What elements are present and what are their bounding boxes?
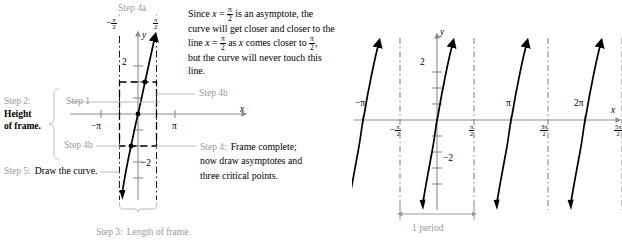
- step-5-block: Step 5: Draw the curve.: [4, 160, 98, 178]
- note-line-3: line x = π2 as x comes closer to π2,: [188, 35, 348, 52]
- right-xlabel-5pi-over-2: 5π2: [614, 124, 622, 138]
- left-y-axis-label: y: [142, 30, 146, 40]
- step-4b-lower-label: Step 4b: [64, 140, 93, 150]
- step-4-text-line3: three critical points.: [200, 170, 278, 181]
- step-2-line3: of frame.: [4, 121, 41, 131]
- right-y-tick-neg2: −2: [443, 153, 453, 163]
- right-xlabel-pi: π: [506, 98, 511, 108]
- critical-point-lower: [129, 144, 134, 149]
- left-curve-arrow-down: [119, 190, 125, 200]
- right-xlabel-neg-pi-over-2: −π2: [390, 124, 401, 138]
- step-2-label: Step 2: Height of frame.: [4, 95, 41, 133]
- step-5-label: Step 5:: [4, 166, 31, 176]
- note-line-5: line.: [188, 65, 348, 77]
- step-2-line1: Step 2:: [4, 96, 31, 106]
- branch-1: [352, 46, 378, 202]
- right-xlabel-pi-over-2: π2: [469, 124, 474, 138]
- step-3-label: Step 3:: [96, 227, 123, 237]
- right-branch-down-arrows: [352, 200, 574, 210]
- right-graph: [352, 20, 622, 220]
- right-x-axis-label: x: [611, 105, 615, 115]
- note-line-2: curve will get closer and closer to the: [188, 23, 348, 35]
- left-asymptote-pos-label: π2: [153, 17, 158, 31]
- step-4a-label: Step 4a: [118, 3, 146, 13]
- step-4-block: Step 4: Frame complete; now draw asympto…: [200, 139, 325, 182]
- step-4-text-line2: now draw asymptotes and: [200, 155, 302, 166]
- critical-point-origin: [136, 112, 141, 117]
- note-line3-d: as: [226, 37, 239, 48]
- note-text-block: Since x = π2 is an asymptote, the curve …: [188, 6, 348, 77]
- step-4-label: Step 4:: [200, 142, 227, 152]
- note-line1-a: Since: [188, 8, 212, 19]
- note-line3-f: comes closer to: [243, 37, 309, 48]
- note-line3-g: ,: [315, 37, 317, 48]
- figure-root: Step 4a −π2 π2 y x 2 −2 −π π Step 1 Step…: [0, 0, 622, 241]
- left-y-tick-2: 2: [122, 57, 127, 67]
- period-label: 1 period: [412, 223, 443, 233]
- right-xlabel-3pi-over-2: 3π2: [540, 124, 548, 138]
- right-xlabel-2pi: 2π: [574, 98, 584, 108]
- step4a-bracket: [120, 14, 157, 16]
- step-2-line2: Height: [4, 109, 31, 119]
- step-5-text: Draw the curve.: [35, 165, 98, 176]
- left-x-axis-label: x: [240, 104, 244, 114]
- right-y-axis-label: y: [440, 27, 444, 37]
- note-line3-c: =: [210, 37, 220, 48]
- critical-point-upper: [143, 80, 148, 85]
- step2-brace: [48, 88, 62, 160]
- note-line1-c: =: [217, 8, 227, 19]
- left-x-tick-neg-pi: −π: [91, 121, 101, 131]
- left-x-tick-pi: π: [172, 121, 177, 131]
- step-1-label: Step 1: [66, 96, 90, 106]
- note-line3-a: line: [188, 37, 205, 48]
- right-xlabel-neg-pi: −π: [355, 98, 365, 108]
- step3-brace: [120, 202, 157, 212]
- step-3-text: Length of frame.: [127, 227, 191, 237]
- right-y-tick-2: 2: [420, 57, 425, 67]
- note-line-1: Since x = π2 is an asymptote, the: [188, 6, 348, 23]
- step-4-text-line1: Frame complete;: [231, 141, 297, 152]
- note-line1-d: is an asymptote, the: [233, 8, 313, 19]
- step-4b-upper-label: Step 4b: [199, 88, 228, 98]
- left-asymptote-neg-label: −π2: [106, 17, 117, 31]
- note-line-4: but the curve will never touch this: [188, 52, 348, 64]
- left-y-tick-neg2: −2: [141, 158, 151, 168]
- step-3-block: Step 3: Length of frame.: [96, 221, 191, 239]
